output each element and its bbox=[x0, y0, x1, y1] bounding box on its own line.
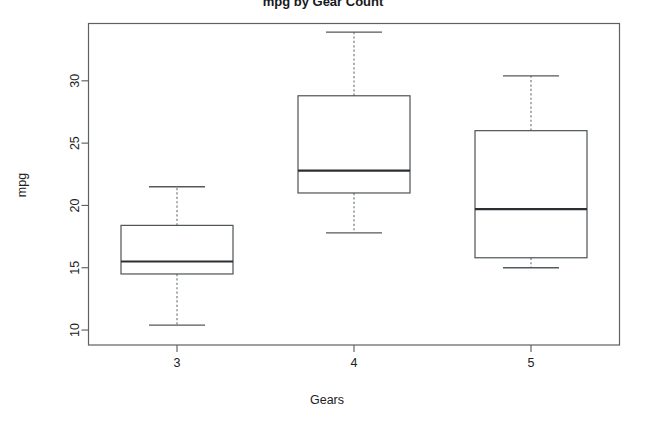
box-group bbox=[298, 32, 410, 233]
y-tick-label: 30 bbox=[68, 74, 82, 88]
x-tick-label: 5 bbox=[528, 356, 535, 370]
box-series bbox=[121, 32, 587, 325]
x-tick-label: 3 bbox=[174, 356, 181, 370]
boxplot-figure: mpg by Gear Count 1015202530 345 mpg Gea… bbox=[0, 0, 646, 425]
box-body bbox=[475, 131, 587, 258]
boxplot-canvas: mpg by Gear Count 1015202530 345 mpg Gea… bbox=[0, 0, 646, 425]
box-body bbox=[298, 96, 410, 193]
x-tick-label: 4 bbox=[351, 356, 358, 370]
box-group bbox=[121, 187, 233, 325]
box-body bbox=[121, 225, 233, 274]
y-tick-label: 20 bbox=[68, 198, 82, 212]
plot-title: mpg by Gear Count bbox=[263, 0, 384, 9]
y-axis-ticks: 1015202530 bbox=[68, 74, 89, 337]
x-axis-ticks: 345 bbox=[174, 345, 535, 370]
y-tick-label: 10 bbox=[68, 323, 82, 337]
x-axis-title: Gears bbox=[310, 393, 344, 407]
y-tick-label: 15 bbox=[68, 261, 82, 275]
y-tick-label: 25 bbox=[68, 136, 82, 150]
box-group bbox=[475, 76, 587, 268]
y-axis-title: mpg bbox=[15, 173, 29, 197]
